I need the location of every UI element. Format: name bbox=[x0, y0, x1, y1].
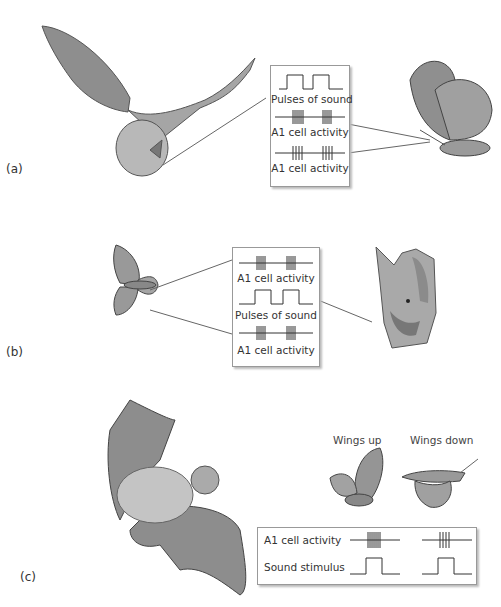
trace-label: A1 cell activity bbox=[233, 344, 319, 356]
spike-trace bbox=[239, 326, 313, 340]
sound-stimulus-trace bbox=[350, 554, 470, 576]
caption-wings-up: Wings up bbox=[333, 434, 382, 446]
moth-wings-down-illustration bbox=[400, 455, 480, 510]
row-label-a1: A1 cell activity bbox=[264, 534, 341, 546]
moth-wings-up-illustration bbox=[325, 448, 395, 508]
panel-label-c: (c) bbox=[20, 570, 36, 584]
bat-head-illustration bbox=[372, 243, 442, 353]
trace-label: A1 cell activity bbox=[271, 162, 349, 174]
spike-trace bbox=[239, 256, 313, 270]
signal-box-b: A1 cell activity Pulses of sound A1 cell… bbox=[232, 247, 320, 367]
signal-box-a: Pulses of sound A1 cell activity A1 cell… bbox=[270, 65, 350, 187]
trace-label: A1 cell activity bbox=[271, 126, 349, 138]
spike-trace bbox=[275, 110, 345, 124]
signal-box-c: A1 cell activity Sound stimulus bbox=[257, 527, 477, 585]
trace-label: A1 cell activity bbox=[233, 272, 319, 284]
bat-flying-2-illustration bbox=[50, 400, 240, 600]
trace-label: Pulses of sound bbox=[271, 93, 349, 105]
caption-wings-down: Wings down bbox=[410, 434, 474, 446]
sound-pulse-trace bbox=[239, 288, 313, 306]
trace-label: Pulses of sound bbox=[233, 309, 319, 321]
sound-pulse-trace bbox=[279, 73, 343, 91]
spike-trace bbox=[350, 532, 470, 548]
row-label-sound: Sound stimulus bbox=[264, 561, 345, 573]
connector-lines-a bbox=[0, 0, 501, 200]
spike-trace bbox=[275, 146, 345, 160]
